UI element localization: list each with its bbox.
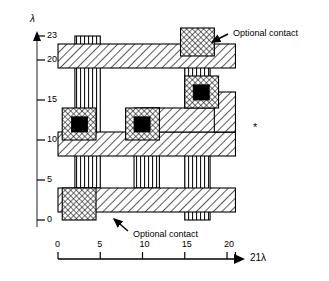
figure-root: λ 21λ Optional contact Optional contact … bbox=[0, 0, 329, 281]
y-axis-label: λ bbox=[30, 14, 35, 24]
y-axis-ticks bbox=[37, 36, 45, 220]
y-tick-label: 20 bbox=[47, 55, 57, 64]
layout-shape-diffusion bbox=[62, 188, 96, 220]
opt-contact-bottom-label: Optional contact bbox=[133, 230, 198, 239]
opt-contact-top-label: Optional contact bbox=[233, 29, 298, 38]
y-tick-label: 0 bbox=[47, 215, 52, 224]
layout-shape-contact bbox=[134, 117, 150, 132]
x-tick-label: 15 bbox=[182, 240, 192, 249]
y-tick-label: 15 bbox=[47, 95, 57, 104]
layout-shape-diffusion bbox=[181, 28, 215, 56]
opt-contact-bottom-arrow bbox=[114, 219, 128, 231]
shapes-layer bbox=[58, 28, 235, 220]
y-tick-label: 23 bbox=[47, 31, 57, 40]
x-tick-label: 0 bbox=[55, 240, 60, 249]
x-axis-label: 21λ bbox=[250, 253, 266, 263]
x-tick-label: 5 bbox=[97, 240, 102, 249]
layout-shape-contact bbox=[72, 117, 88, 132]
y-tick-label: 10 bbox=[47, 135, 57, 144]
asterisk-marker: * bbox=[253, 122, 257, 133]
x-axis-ticks bbox=[58, 252, 235, 259]
layout-shape-contact bbox=[193, 85, 209, 100]
y-tick-label: 5 bbox=[47, 175, 52, 184]
x-tick-label: 20 bbox=[224, 240, 234, 249]
x-tick-label: 10 bbox=[140, 240, 150, 249]
